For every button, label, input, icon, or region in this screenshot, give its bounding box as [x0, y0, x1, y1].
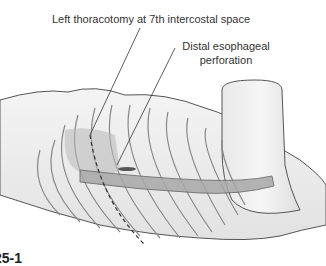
label-perforation: Distal esophageal perforation [176, 39, 276, 67]
perforation-mark [118, 167, 136, 171]
label-thoracotomy: Left thoracotomy at 7th intercostal spac… [52, 12, 250, 26]
figure-number: 25-1 [0, 250, 22, 266]
arm [222, 80, 300, 213]
